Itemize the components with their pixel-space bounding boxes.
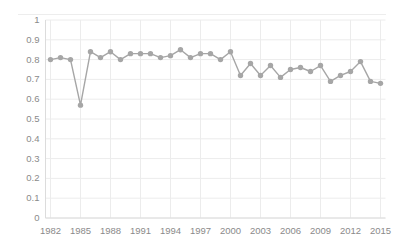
x-axis-tick-label: 2009 [306,226,336,236]
data-point-marker: 2013: 0.79 [358,59,363,64]
data-point-marker: 1996: 0.81 [188,55,193,60]
data-point-marker: 2005: 0.71 [278,75,283,80]
data-point-marker: 1989: 0.8 [118,57,123,62]
data-point-marker: 2007: 0.76 [298,65,303,70]
data-point-marker: 2015: 0.68 [378,81,383,86]
data-point-marker: 1994: 0.82 [168,53,173,58]
x-axis-tick-label: 2015 [366,226,394,236]
data-point-marker: 2008: 0.74 [308,69,313,74]
data-point-marker: 2011: 0.72 [338,73,343,78]
data-point-marker: 1992: 0.83 [148,51,153,56]
data-point-marker: 1997: 0.83 [198,51,203,56]
data-point-marker: 1990: 0.83 [128,51,133,56]
data-point-marker: 2014: 0.69 [368,79,373,84]
y-axis-tick-label: 1 [16,15,40,25]
data-point-marker: 2006: 0.75 [288,67,293,72]
y-axis-tick-label: 0 [16,213,40,223]
horizontal-gridlines [46,20,386,218]
data-point-marker: 1999: 0.8 [218,57,223,62]
y-axis-tick-label: 0.1 [16,193,40,203]
y-axis-tick-label: 0.7 [16,74,40,84]
data-point-marker: 2009: 0.77 [318,63,323,68]
x-axis-tick-label: 1991 [126,226,156,236]
x-axis-tick-label: 2012 [336,226,366,236]
data-point-marker: 2000: 0.84 [228,49,233,54]
data-point-marker: 2001: 0.72 [238,73,243,78]
y-axis-tick-label: 0.5 [16,114,40,124]
y-axis-tick-label: 0.8 [16,55,40,65]
data-point-marker: 1993: 0.81 [158,55,163,60]
chart-container: 1982: 0.81983: 0.811984: 0.81985: 0.5719… [0,0,394,250]
x-axis-tick-label: 2000 [216,226,246,236]
data-point-marker: 2002: 0.78 [248,61,253,66]
data-point-marker: 1998: 0.83 [208,51,213,56]
data-point-marker: 2003: 0.72 [258,73,263,78]
data-point-marker: 2012: 0.74 [348,69,353,74]
data-point-marker: 1988: 0.84 [108,49,113,54]
data-point-marker: 2004: 0.77 [268,63,273,68]
data-point-marker: 1986: 0.84 [88,49,93,54]
data-point-marker: 1983: 0.81 [58,55,63,60]
x-axis-tick-label: 2006 [276,226,306,236]
y-axis-tick-label: 0.4 [16,134,40,144]
data-point-marker: 1985: 0.57 [78,102,83,107]
y-axis-tick-label: 0.3 [16,154,40,164]
data-point-marker: 1991: 0.83 [138,51,143,56]
y-axis-tick-label: 0.2 [16,173,40,183]
data-point-marker: 1984: 0.8 [68,57,73,62]
x-axis-tick-label: 1982 [36,226,66,236]
line-chart-plot: 1982: 0.81983: 0.811984: 0.81985: 0.5719… [0,0,394,250]
y-axis-tick-label: 0.6 [16,94,40,104]
data-point-marker: 1987: 0.81 [98,55,103,60]
data-point-marker: 1995: 0.85 [178,47,183,52]
x-axis-tick-label: 1985 [66,226,96,236]
y-axis-tick-label: 0.9 [16,35,40,45]
x-axis-tick-label: 1994 [156,226,186,236]
data-point-marker: 2010: 0.69 [328,79,333,84]
x-axis-tick-label: 1997 [186,226,216,236]
x-axis-tick-label: 1988 [96,226,126,236]
data-point-marker: 1982: 0.8 [48,57,53,62]
x-axis-tick-label: 2003 [246,226,276,236]
